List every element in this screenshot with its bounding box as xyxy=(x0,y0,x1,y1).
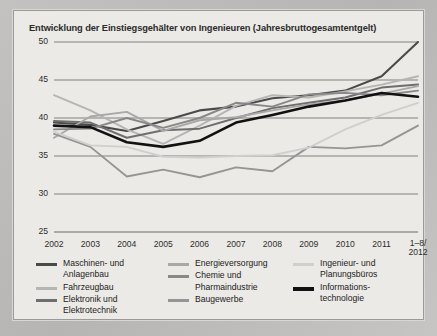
figure-root: Entwicklung der Einstiegsgehälter von In… xyxy=(0,0,437,336)
legend-item: Energieversorgung xyxy=(168,258,293,269)
legend-swatch-icon xyxy=(293,287,314,291)
x-tick-label: 2009 xyxy=(289,239,329,249)
legend-item-label: Energieversorgung xyxy=(195,258,268,269)
x-tick-label: 2008 xyxy=(252,239,292,249)
x-tick-label: 2003 xyxy=(70,239,110,249)
legend-item: Baugewerbe xyxy=(168,294,293,305)
legend-swatch-icon xyxy=(36,299,57,302)
legend-item: Chemie und Pharmaindustrie xyxy=(168,270,293,293)
legend-item-label: Informations- technologie xyxy=(320,282,370,305)
legend-column-3: Ingenieur- und PlanungsbürosInformations… xyxy=(293,258,413,318)
legend-item: Maschinen- und Anlagenbau xyxy=(36,258,168,281)
legend-item-label: Fahrzeugbau xyxy=(63,282,114,293)
y-tick-label: 30 xyxy=(28,188,48,198)
y-tick-label: 50 xyxy=(28,36,48,46)
chart-panel: Entwicklung der Einstiegsgehälter von In… xyxy=(13,10,424,320)
y-tick-label: 45 xyxy=(28,74,48,84)
legend-item: Ingenieur- und Planungsbüros xyxy=(293,258,413,281)
x-tick-label: 2004 xyxy=(107,239,147,249)
x-tick-label: 2010 xyxy=(325,239,365,249)
legend-swatch-icon xyxy=(168,263,189,266)
x-tick-label: 2002 xyxy=(34,239,74,249)
x-tick-label: 2006 xyxy=(180,239,220,249)
legend-item: Informations- technologie xyxy=(293,282,413,305)
x-tick-label: 2011 xyxy=(362,239,402,249)
y-tick-label: 35 xyxy=(28,150,48,160)
legend-swatch-icon xyxy=(168,299,189,302)
legend-item: Fahrzeugbau xyxy=(36,282,168,293)
series-line-2 xyxy=(54,85,418,138)
legend-swatch-icon xyxy=(36,287,57,290)
y-tick-label: 25 xyxy=(28,226,48,236)
y-tick-label: 40 xyxy=(28,112,48,122)
chart-legend: Maschinen- und AnlagenbauFahrzeugbauElek… xyxy=(36,258,416,318)
legend-item-label: Ingenieur- und Planungsbüros xyxy=(320,258,377,281)
legend-item-label: Elektronik und Elektrotechnik xyxy=(63,294,117,317)
x-tick-label: 1–8/2012 xyxy=(398,239,437,257)
legend-swatch-icon xyxy=(293,263,314,266)
legend-item-label: Baugewerbe xyxy=(195,294,243,305)
legend-item-label: Chemie und Pharmaindustrie xyxy=(195,270,258,293)
legend-column-2: EnergieversorgungChemie und Pharmaindust… xyxy=(168,258,293,318)
x-tick-label: 2005 xyxy=(143,239,183,249)
legend-swatch-icon xyxy=(168,275,189,278)
x-tick-label: 2007 xyxy=(216,239,256,249)
legend-item-label: Maschinen- und Anlagenbau xyxy=(63,258,124,281)
legend-item: Elektronik und Elektrotechnik xyxy=(36,294,168,317)
legend-swatch-icon xyxy=(36,263,57,266)
legend-column-1: Maschinen- und AnlagenbauFahrzeugbauElek… xyxy=(36,258,168,318)
